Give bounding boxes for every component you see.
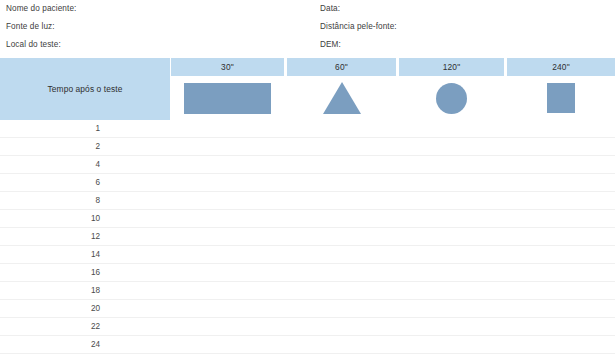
table-row: 22 — [0, 318, 615, 336]
row-label: 8 — [0, 192, 100, 209]
field-nome-do-paciente: Nome do paciente: — [6, 0, 76, 18]
table-cell[interactable] — [171, 228, 284, 245]
table-cell[interactable] — [507, 264, 615, 281]
column-header-60: 60" — [287, 58, 396, 76]
table-cell[interactable] — [399, 228, 504, 245]
table-cell[interactable] — [171, 300, 284, 317]
table-row: 1 — [0, 120, 615, 138]
table-cell[interactable] — [171, 246, 284, 263]
shape-cell-60 — [287, 76, 396, 120]
row-label: 12 — [0, 228, 100, 245]
table-cell[interactable] — [507, 300, 615, 317]
row-label: 14 — [0, 246, 100, 263]
table-row: 16 — [0, 264, 615, 282]
table-cell[interactable] — [399, 264, 504, 281]
table-row: 12 — [0, 228, 615, 246]
table-cell[interactable] — [399, 138, 504, 155]
row-header-tempo-apos-o-teste: Tempo após o teste — [0, 58, 170, 120]
table-row: 6 — [0, 174, 615, 192]
row-label: 6 — [0, 174, 100, 191]
table-row: 10 — [0, 210, 615, 228]
table-cell[interactable] — [287, 282, 396, 299]
triangle-shape-icon — [323, 82, 361, 114]
square-shape-icon — [547, 83, 575, 113]
table-cell[interactable] — [171, 336, 284, 353]
table-cell[interactable] — [399, 336, 504, 353]
table-row: 18 — [0, 282, 615, 300]
table-cell[interactable] — [399, 282, 504, 299]
table-row: 14 — [0, 246, 615, 264]
table-cell[interactable] — [287, 174, 396, 191]
table-cell[interactable] — [171, 282, 284, 299]
column-header-30: 30" — [171, 58, 284, 76]
table-cell[interactable] — [507, 120, 615, 137]
table-cell[interactable] — [507, 138, 615, 155]
table-cell[interactable] — [287, 120, 396, 137]
table-cell[interactable] — [399, 192, 504, 209]
shape-cell-240 — [507, 76, 615, 120]
table-cell[interactable] — [507, 228, 615, 245]
shape-band: Tempo após o teste — [0, 76, 615, 120]
table-cell[interactable] — [399, 120, 504, 137]
table-cell[interactable] — [171, 138, 284, 155]
rectangle-shape-icon — [184, 83, 271, 114]
table-row: 4 — [0, 156, 615, 174]
table-cell[interactable] — [507, 246, 615, 263]
test-table: 30" 60" 120" 240" Tempo após o teste 124… — [0, 58, 615, 354]
table-row: 24 — [0, 336, 615, 354]
row-label: 1 — [0, 120, 100, 137]
form-header: Nome do paciente: Fonte de luz: Local do… — [0, 0, 615, 56]
field-fonte-de-luz: Fonte de luz: — [6, 18, 76, 36]
table-cell[interactable] — [287, 264, 396, 281]
table-row: 8 — [0, 192, 615, 210]
table-cell[interactable] — [507, 336, 615, 353]
table-cell[interactable] — [287, 156, 396, 173]
row-label: 4 — [0, 156, 100, 173]
table-body: 124681012141618202224 — [0, 120, 615, 354]
table-cell[interactable] — [171, 192, 284, 209]
table-cell[interactable] — [399, 210, 504, 227]
field-distancia-pele-fonte: Distância pele-fonte: — [320, 18, 397, 36]
field-data: Data: — [320, 0, 397, 18]
row-label: 16 — [0, 264, 100, 281]
table-cell[interactable] — [171, 156, 284, 173]
row-label: 2 — [0, 138, 100, 155]
table-cell[interactable] — [507, 156, 615, 173]
table-row: 2 — [0, 138, 615, 156]
table-row: 20 — [0, 300, 615, 318]
shape-cell-30 — [171, 76, 284, 120]
shape-cell-120 — [399, 76, 504, 120]
table-cell[interactable] — [399, 246, 504, 263]
table-cell[interactable] — [399, 156, 504, 173]
table-cell[interactable] — [287, 138, 396, 155]
table-cell[interactable] — [507, 174, 615, 191]
table-cell[interactable] — [171, 210, 284, 227]
table-cell[interactable] — [287, 300, 396, 317]
row-label: 10 — [0, 210, 100, 227]
form-header-left-column: Nome do paciente: Fonte de luz: Local do… — [6, 0, 76, 54]
table-cell[interactable] — [171, 264, 284, 281]
row-label: 22 — [0, 318, 100, 335]
column-header-120: 120" — [399, 58, 504, 76]
circle-shape-icon — [436, 83, 467, 114]
table-cell[interactable] — [507, 210, 615, 227]
table-cell[interactable] — [287, 210, 396, 227]
table-cell[interactable] — [287, 246, 396, 263]
table-cell[interactable] — [171, 174, 284, 191]
row-label: 24 — [0, 336, 100, 353]
table-cell[interactable] — [399, 318, 504, 335]
table-cell[interactable] — [287, 318, 396, 335]
table-cell[interactable] — [399, 174, 504, 191]
table-cell[interactable] — [507, 192, 615, 209]
row-label: 18 — [0, 282, 100, 299]
table-cell[interactable] — [507, 318, 615, 335]
table-cell[interactable] — [287, 336, 396, 353]
field-local-do-teste: Local do teste: — [6, 36, 76, 54]
table-cell[interactable] — [399, 300, 504, 317]
form-header-right-column: Data: Distância pele-fonte: DEM: — [320, 0, 397, 54]
table-cell[interactable] — [171, 120, 284, 137]
table-cell[interactable] — [287, 228, 396, 245]
table-cell[interactable] — [287, 192, 396, 209]
table-cell[interactable] — [507, 282, 615, 299]
table-cell[interactable] — [171, 318, 284, 335]
